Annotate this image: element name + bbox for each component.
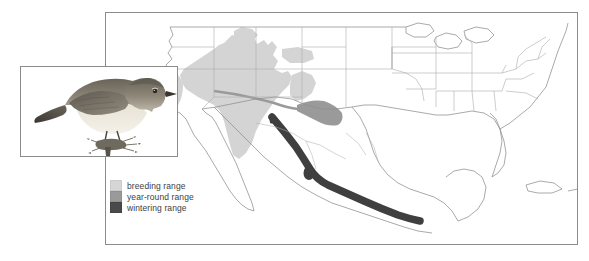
- legend-label-breeding: breeding range: [127, 181, 186, 191]
- breeding-range-eastern-arm: [290, 71, 316, 101]
- legend-label-year-round: year-round range: [127, 192, 194, 202]
- wintering-range-sierra-madre-band: [272, 117, 420, 221]
- legend-item-wintering: wintering range: [110, 202, 210, 213]
- yucatan-peninsula: [446, 169, 486, 221]
- bird-illustration-inset: [20, 66, 178, 157]
- atlantic-coast: [500, 23, 568, 129]
- breeding-range-colorado-patch: [282, 47, 314, 63]
- bird-tail: [34, 105, 66, 123]
- perch-twig: [87, 136, 141, 156]
- year-round-range-swatch: [110, 191, 122, 202]
- us-gulf-coast: [352, 105, 506, 177]
- great-lakes-outline: [406, 23, 494, 49]
- bird-illustration-graphic: [21, 67, 177, 156]
- bird-beak: [165, 91, 177, 97]
- breeding-range-main: [180, 33, 292, 159]
- twig-main: [95, 139, 126, 151]
- map-layers: [162, 23, 577, 233]
- caribbean-islands: [526, 181, 577, 193]
- twig-stem: [105, 147, 111, 156]
- bird-eye-highlight: [154, 90, 155, 91]
- legend-item-year-round: year-round range: [110, 191, 210, 202]
- legend-item-breeding: breeding range: [110, 180, 210, 191]
- figure-root: breeding range year-round range winterin…: [0, 0, 589, 261]
- wintering-range-swatch: [110, 202, 122, 213]
- mexico-interior-borders: [256, 123, 378, 169]
- range-legend: breeding range year-round range winterin…: [110, 180, 210, 213]
- wintering-range-coastal-spot: [304, 166, 315, 180]
- breeding-range-swatch: [110, 180, 122, 191]
- bird-eye: [153, 89, 157, 93]
- legend-label-wintering: wintering range: [127, 203, 187, 213]
- bird-body-group: [34, 78, 177, 146]
- state-borders-east: [392, 35, 550, 111]
- wintering-range-layer: [269, 115, 420, 222]
